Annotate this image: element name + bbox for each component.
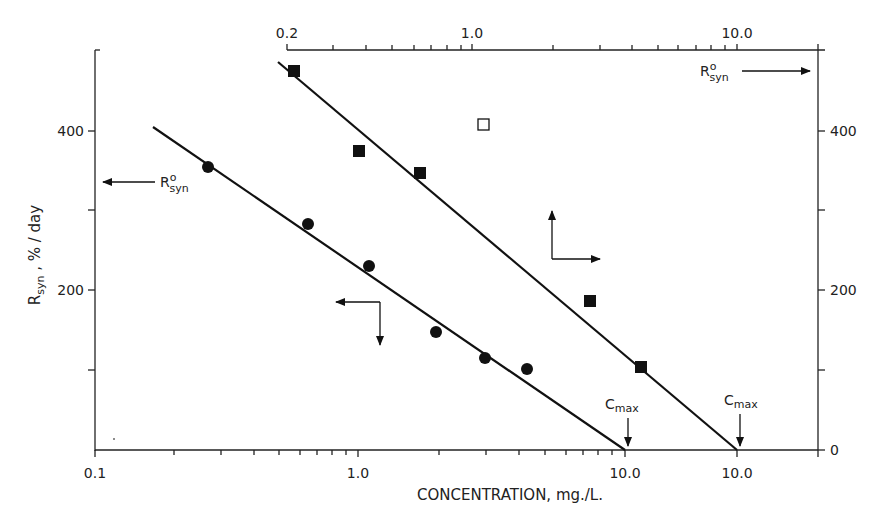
data-point-circle bbox=[363, 260, 375, 272]
cmax-top-annotation: Cmax bbox=[724, 392, 758, 411]
speck bbox=[113, 438, 115, 440]
bottom-x-tick-1.0: 1.0 bbox=[347, 465, 369, 481]
left-y-tick-400: 400 bbox=[57, 123, 84, 139]
square-series-fit-line bbox=[278, 62, 737, 450]
data-point-square bbox=[353, 145, 365, 157]
data-point-square bbox=[635, 361, 647, 373]
left-y-axis bbox=[88, 50, 100, 451]
bottom-x-axis bbox=[95, 450, 818, 457]
top-x-tick-0.2: 0.2 bbox=[276, 25, 298, 41]
data-point-square bbox=[288, 65, 300, 77]
data-point-square bbox=[584, 295, 596, 307]
chart-canvas: 400 200 Rsyn , % / day 0.1 1.0 10.0 10.0… bbox=[0, 0, 879, 528]
data-point-open-square bbox=[478, 119, 489, 130]
square-axis-indicator-icon bbox=[552, 211, 600, 259]
right-y-tick-200: 200 bbox=[830, 282, 857, 298]
circle-series-points bbox=[202, 161, 533, 375]
top-x-tick-10.0: 10.0 bbox=[721, 25, 752, 41]
left-rsyn-annotation: Rosyn bbox=[160, 171, 189, 195]
right-y-axis bbox=[818, 44, 825, 457]
circle-axis-indicator-icon bbox=[336, 302, 380, 345]
left-y-tick-200: 200 bbox=[57, 282, 84, 298]
bottom-x-tick-0.1: 0.1 bbox=[84, 465, 106, 481]
circle-series-fit-line bbox=[153, 127, 625, 450]
right-rsyn-annotation: Rosyn bbox=[700, 60, 729, 84]
data-point-square bbox=[414, 167, 426, 179]
ylabel-sub: syn bbox=[34, 276, 47, 295]
y-axis-title: Rsyn , % / day bbox=[26, 205, 47, 306]
right-cmax-tick-10.0: 10.0 bbox=[721, 465, 752, 481]
ylabel-main: R bbox=[26, 295, 44, 305]
data-point-circle bbox=[479, 352, 491, 364]
square-series-points bbox=[288, 65, 647, 373]
data-point-circle bbox=[521, 363, 533, 375]
data-point-circle bbox=[302, 218, 314, 230]
bottom-x-tick-10.0: 10.0 bbox=[609, 465, 640, 481]
data-point-circle bbox=[430, 326, 442, 338]
x-axis-title: CONCENTRATION, mg./L. bbox=[417, 486, 603, 504]
right-y-tick-0: 0 bbox=[830, 442, 839, 458]
right-y-tick-400: 400 bbox=[830, 123, 857, 139]
cmax-bottom-annotation: Cmax bbox=[605, 396, 639, 415]
ylabel-units: , % / day bbox=[26, 205, 44, 276]
svg-text:Rsyn , % / day: Rsyn , % / day bbox=[26, 205, 47, 306]
top-x-tick-1.0: 1.0 bbox=[461, 25, 483, 41]
top-x-axis bbox=[287, 44, 825, 50]
data-point-circle bbox=[202, 161, 214, 173]
